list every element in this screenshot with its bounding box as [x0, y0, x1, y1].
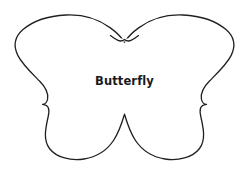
- butterfly-template-canvas: Butterfly: [0, 0, 249, 171]
- shape-label-text: Butterfly: [0, 74, 249, 88]
